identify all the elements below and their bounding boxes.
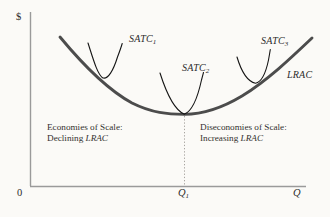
satc3-label-sub: 3 bbox=[285, 40, 289, 48]
satc1-label: SATC1 bbox=[129, 33, 156, 45]
satc1-label-sub: 1 bbox=[153, 38, 157, 46]
lrac-curve bbox=[60, 37, 312, 114]
x-axis-label: Q bbox=[293, 187, 301, 199]
satc3-label: SATC3 bbox=[261, 35, 288, 47]
diagram-canvas bbox=[0, 0, 330, 217]
y-axis-label: $ bbox=[16, 11, 21, 23]
diseconomies-of-scale-line2-prefix: Increasing bbox=[200, 133, 241, 143]
economies-of-scale-line2: Declining LRAC bbox=[47, 133, 123, 144]
economies-of-scale-line2-em: LRAC bbox=[86, 133, 108, 143]
satc2-label: SATC2 bbox=[182, 62, 209, 74]
economies-of-scale-line1: Economies of Scale: bbox=[47, 122, 123, 133]
economies-of-scale-line2-prefix: Declining bbox=[47, 133, 86, 143]
x-tick-label-q1-sub: 1 bbox=[186, 192, 190, 200]
lrac-diagram: $ 0 Q1 Q SATC1 SATC2 SATC3 LRAC Economie… bbox=[0, 0, 330, 217]
satc2-curve bbox=[160, 73, 204, 115]
lrac-label: LRAC bbox=[287, 69, 312, 81]
satc2-label-sub: 2 bbox=[206, 67, 210, 75]
satc2-label-text: SATC bbox=[182, 62, 206, 73]
x-tick-label-q1-text: Q bbox=[178, 187, 186, 198]
economies-of-scale-annotation: Economies of Scale: Declining LRAC bbox=[47, 122, 123, 144]
diseconomies-of-scale-line2: Increasing LRAC bbox=[200, 133, 287, 144]
satc3-label-text: SATC bbox=[261, 35, 285, 46]
diseconomies-of-scale-annotation: Diseconomies of Scale: Increasing LRAC bbox=[200, 122, 287, 144]
satc1-label-text: SATC bbox=[129, 33, 153, 44]
origin-label: 0 bbox=[17, 187, 22, 199]
x-tick-label-q1: Q1 bbox=[178, 187, 189, 199]
diseconomies-of-scale-line1: Diseconomies of Scale: bbox=[200, 122, 287, 133]
diseconomies-of-scale-line2-em: LRAC bbox=[241, 133, 263, 143]
